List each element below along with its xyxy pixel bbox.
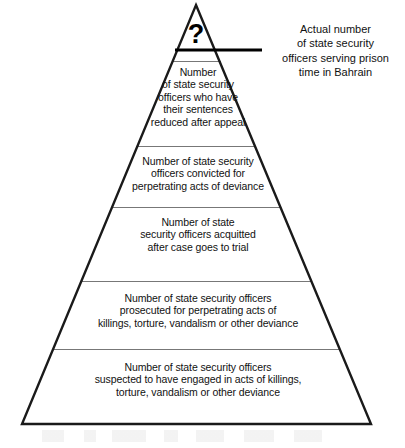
tier-label-sentences-reduced: Number of state security officers who ha…	[118, 66, 278, 128]
apex-question-mark: ?	[176, 21, 216, 48]
tier-label-prosecuted: Number of state security officers prosec…	[50, 292, 346, 329]
tier-label-convicted: Number of state security officers convic…	[100, 155, 296, 192]
tier-label-suspected: Number of state security officers suspec…	[32, 361, 364, 398]
tier-label-acquitted: Number of state security officers acquit…	[84, 216, 312, 253]
pyramid-diagram-canvas: ? Number of state security officers who …	[0, 0, 405, 448]
callout-annotation-text: Actual number of state security officers…	[266, 22, 405, 79]
